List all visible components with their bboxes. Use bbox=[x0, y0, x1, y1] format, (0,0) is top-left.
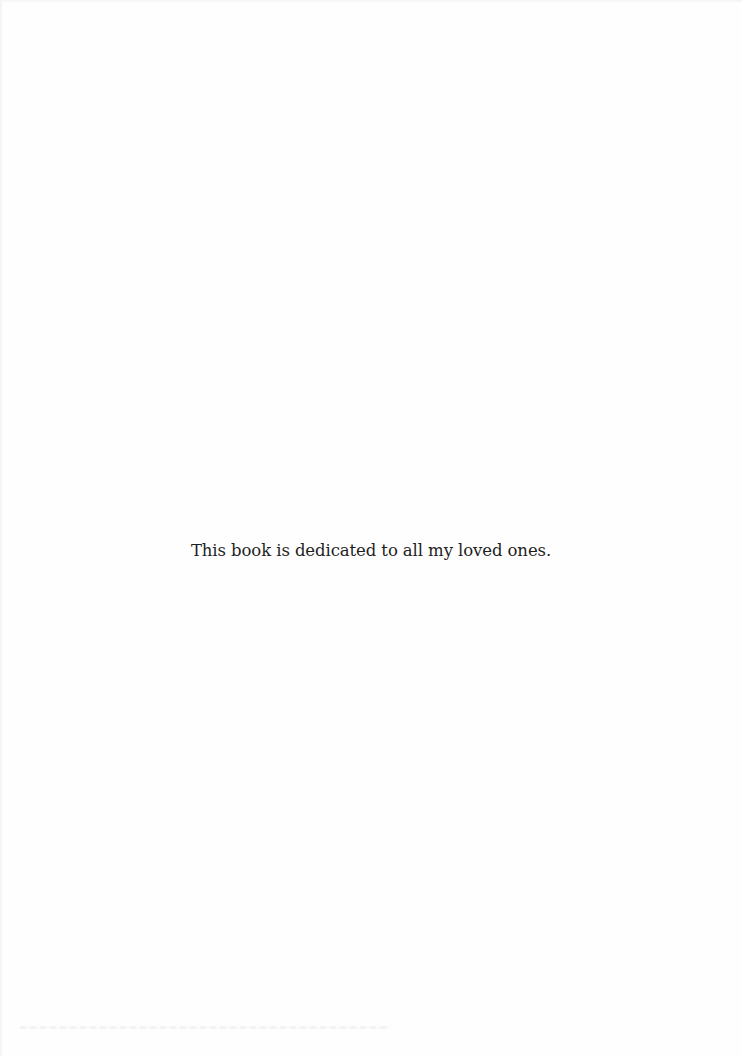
dedication-text: This book is dedicated to all my loved o… bbox=[0, 539, 742, 563]
scan-artifact bbox=[20, 1026, 390, 1029]
scan-edge-left bbox=[0, 0, 3, 1056]
book-page: This book is dedicated to all my loved o… bbox=[0, 0, 742, 1056]
scan-edge-top bbox=[0, 0, 742, 3]
